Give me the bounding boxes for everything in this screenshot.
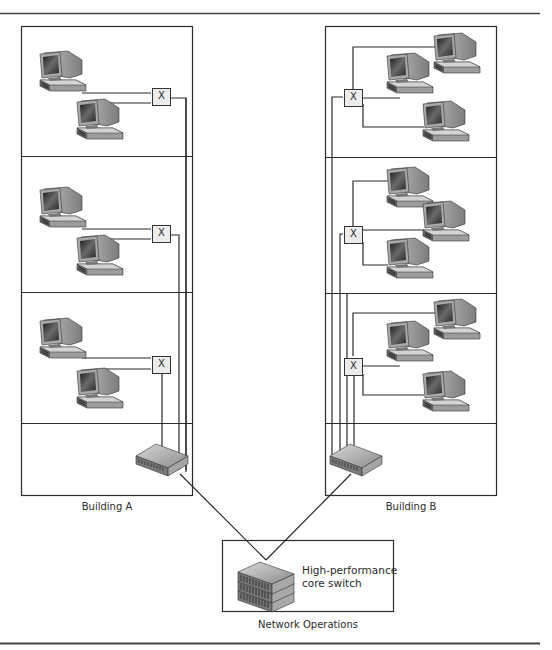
uplink-building-b (266, 474, 351, 560)
building-a-label: Building A (82, 501, 133, 512)
workstation-icon (77, 235, 123, 275)
workstation-icon (77, 99, 123, 139)
workstation-icon (40, 318, 86, 358)
hub-label: X (350, 228, 357, 239)
hub-label: X (350, 91, 357, 102)
hub-label: X (350, 360, 357, 371)
building-b-label: Building B (386, 501, 437, 512)
riser-cable-floor-2 (171, 235, 179, 470)
core-switch-label-line2: core switch (302, 577, 397, 590)
core-switch-label-line1: High-performance (302, 564, 397, 577)
workstation-icon (423, 371, 469, 411)
hub-label: X (158, 227, 165, 238)
workstation-icon (40, 187, 86, 227)
network-operations-label: Network Operations (258, 619, 358, 630)
workstation-icon (387, 238, 433, 278)
hub-label: X (158, 90, 165, 101)
network-diagram (0, 0, 552, 650)
workstation-icon (434, 33, 480, 73)
hub-label: X (158, 358, 165, 369)
workstation-icon (434, 299, 480, 339)
core-switch-icon (238, 562, 294, 612)
workstation-icon (423, 201, 469, 241)
workstation-icon (387, 53, 433, 93)
building-b-switch-icon (330, 444, 382, 476)
workstation-icon (423, 101, 469, 141)
workstation-icon (77, 368, 123, 408)
riser-cable-floor-1 (332, 97, 343, 465)
building-a-switch-icon (136, 444, 188, 476)
workstation-icon (387, 167, 433, 207)
core-switch-label: High-performance core switch (302, 564, 397, 590)
workstation-icon (387, 321, 433, 361)
workstation-icon (40, 51, 86, 91)
riser-cable-floor-2 (340, 234, 343, 460)
